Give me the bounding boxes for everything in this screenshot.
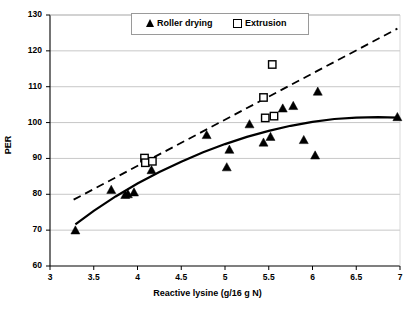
y-axis-label: PER (3, 125, 13, 165)
data-point-roller-drying (289, 101, 298, 109)
x-tick-label: 4.5 (168, 272, 194, 282)
x-tick-label: 6 (300, 272, 326, 282)
legend-item-roller-drying: Roller drying (146, 18, 213, 28)
y-tick-label: 60 (16, 260, 42, 270)
open-square-icon (233, 19, 242, 28)
y-tick-label: 90 (16, 152, 42, 162)
data-point-roller-drying (222, 163, 231, 171)
x-tick-label: 5 (212, 272, 238, 282)
data-point-roller-drying (107, 185, 116, 193)
data-point-extrusion (270, 112, 277, 119)
x-axis-label: Reactive lysine (g/16 g N) (0, 288, 415, 298)
chart-figure: PER Reactive lysine (g/16 g N) Roller dr… (0, 0, 415, 310)
legend: Roller drying Extrusion (131, 13, 309, 35)
trendline-solid (75, 117, 397, 224)
filled-triangle-icon (146, 19, 154, 27)
data-point-roller-drying (130, 188, 139, 196)
y-tick-label: 80 (16, 188, 42, 198)
data-point-roller-drying (278, 104, 287, 112)
x-tick-label: 5.5 (256, 272, 282, 282)
x-tick-label: 3 (37, 272, 63, 282)
y-tick-label: 100 (16, 117, 42, 127)
x-tick-label: 6.5 (343, 272, 369, 282)
trendline-dashed (74, 29, 398, 200)
x-tick-label: 3.5 (81, 272, 107, 282)
y-tick-label: 110 (16, 81, 42, 91)
plot-area (0, 0, 415, 310)
data-point-extrusion (260, 94, 267, 101)
data-point-extrusion (269, 61, 276, 68)
data-point-roller-drying (245, 120, 254, 128)
y-tick-label: 70 (16, 224, 42, 234)
data-point-roller-drying (313, 87, 322, 95)
data-point-roller-drying (311, 151, 320, 159)
x-tick-label: 7 (387, 272, 413, 282)
data-point-extrusion (142, 159, 149, 166)
data-point-roller-drying (266, 132, 275, 140)
y-tick-label: 120 (16, 45, 42, 55)
x-tick-label: 4 (125, 272, 151, 282)
legend-item-extrusion: Extrusion (233, 18, 287, 28)
data-point-extrusion (149, 158, 156, 165)
data-point-roller-drying (225, 145, 234, 153)
data-point-roller-drying (299, 135, 308, 143)
legend-label-extrusion: Extrusion (245, 18, 287, 28)
y-tick-label: 130 (16, 9, 42, 19)
data-point-extrusion (262, 114, 269, 121)
legend-label-roller-drying: Roller drying (157, 18, 213, 28)
